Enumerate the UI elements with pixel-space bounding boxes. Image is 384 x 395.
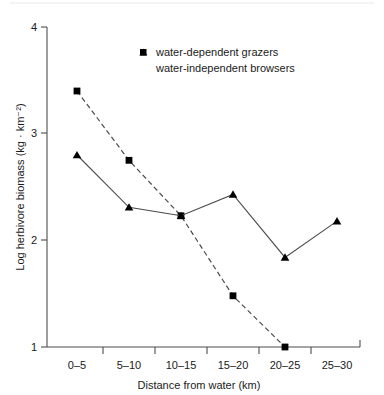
chart-legend: water-dependent grazers water-independen… [139, 46, 295, 74]
y-tick-label-3: 3 [31, 127, 37, 139]
grazers-square-data-point [126, 157, 133, 164]
legend-item-grazers[interactable]: water-dependent grazers [140, 46, 279, 58]
x-tick-label-15-20: 15–20 [218, 359, 249, 371]
y-tick-label-2: 2 [31, 234, 37, 246]
x-axis-ticks: 0–5 5–10 10–15 15–20 20–25 25–30 [68, 347, 352, 371]
x-axis-title: Distance from water (km) [138, 379, 261, 391]
grazers-square-data-point [74, 88, 81, 95]
x-tick-label-5-10: 5–10 [117, 359, 141, 371]
grazers-square-data-point [282, 344, 289, 351]
grazers-square-data-point [230, 292, 237, 299]
y-tick-label-4: 4 [31, 21, 37, 33]
browsers-triangle-data-point [73, 151, 82, 158]
browsers-triangle-data-point [229, 190, 238, 197]
legend-label-browsers: water-independent browsers [155, 62, 295, 74]
x-tick-label-0-5: 0–5 [68, 359, 86, 371]
legend-label-grazers: water-dependent grazers [155, 46, 279, 58]
x-tick-label-10-15: 10–15 [166, 359, 197, 371]
browsers-line-path [77, 155, 337, 257]
browsers-triangle-data-point [333, 217, 342, 224]
y-axis-ticks: 4 3 2 1 [31, 21, 47, 353]
y-axis-title: Log herbivore biomass (kg · km⁻²) [14, 103, 26, 270]
axis-group [47, 27, 360, 347]
series-water-independent-browsers [73, 151, 342, 261]
chart-canvas: 4 3 2 1 0–5 5–10 10–15 15–20 20–25 25–30… [0, 0, 384, 395]
y-tick-label-1: 1 [31, 341, 37, 353]
x-tick-label-25-30: 25–30 [322, 359, 353, 371]
x-tick-label-20-25: 20–25 [270, 359, 301, 371]
